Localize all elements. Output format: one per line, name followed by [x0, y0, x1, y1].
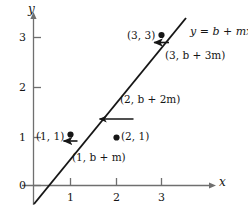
x-axis-title: x: [219, 176, 226, 188]
y-tick-label-0: 0: [19, 180, 26, 191]
x-axis-ticks: [71, 178, 162, 186]
line-equation-label: y = b + mx: [190, 26, 248, 37]
y-axis-ticks: [34, 38, 42, 186]
y-tick-label-1: 1: [19, 132, 26, 143]
regression-line-figure: y x 3 2 1 0 1 2 3 y = b + mx (3, 3) (3, …: [0, 0, 248, 209]
annotation-data-point-2: (2, 1): [121, 131, 149, 142]
x-tick-label-3: 3: [158, 192, 165, 203]
y-tick-label-3: 3: [19, 32, 26, 43]
y-axis-title: y: [28, 3, 35, 15]
annotation-line-point-2: (2, b + 2m): [120, 94, 180, 105]
annotation-data-point-1: (1, 1): [36, 131, 64, 142]
y-axis: [30, 12, 36, 205]
residual-segment-1: [64, 131, 78, 141]
x-tick-label-2: 2: [113, 192, 120, 203]
annotation-line-point-3: (3, b + 3m): [165, 50, 225, 61]
x-tick-label-1: 1: [67, 192, 74, 203]
regression-line: [34, 18, 186, 204]
annotation-data-point-3: (3, 3): [127, 30, 155, 41]
annotation-line-point-1: (1, b + m): [72, 152, 126, 163]
y-tick-label-2: 2: [19, 82, 26, 93]
